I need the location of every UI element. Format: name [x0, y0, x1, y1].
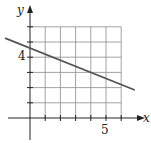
y-axis-arrow-icon [27, 5, 33, 13]
y-axis [27, 5, 33, 140]
x-axis-label: x [143, 111, 150, 125]
x-tick-label-5: 5 [101, 123, 109, 137]
grid [30, 27, 121, 118]
x-axis [8, 115, 145, 121]
data-line [6, 38, 134, 89]
y-tick-label-4: 4 [18, 49, 26, 63]
line-graph: y x 4 5 [0, 0, 151, 143]
y-axis-label: y [16, 3, 24, 17]
